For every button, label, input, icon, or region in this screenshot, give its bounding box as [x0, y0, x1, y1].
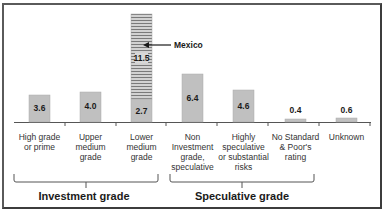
svg-text:6.4: 6.4	[187, 93, 199, 103]
category-labels: High gradeor prime Uppermediumgrade Lowe…	[19, 132, 365, 172]
svg-text:Highlyspeculativeor substantia: Highlyspeculativeor substantialrisks	[218, 132, 269, 172]
svg-text:Uppermediumgrade: Uppermediumgrade	[75, 132, 105, 162]
svg-text:NonInvestmentgrade,speculative: NonInvestmentgrade,speculative	[171, 132, 214, 172]
svg-text:11.5: 11.5	[133, 53, 149, 63]
brace-speculative-grade	[170, 174, 314, 188]
bar-no-sp-rating: 0.4	[285, 105, 306, 122]
svg-text:3.6: 3.6	[34, 103, 46, 113]
svg-text:4.6: 4.6	[238, 101, 250, 111]
svg-text:Lowermediumgrade: Lowermediumgrade	[126, 132, 156, 162]
svg-text:0.4: 0.4	[290, 105, 302, 115]
svg-text:Unknown: Unknown	[329, 132, 365, 142]
bar-lower-medium: 11.5 2.7	[131, 14, 152, 122]
bar-unknown: 0.6	[336, 105, 357, 122]
bar-chart: 3.6 4.0 11.5 2.7 6.4 4.6 0.4 0.6 Mexico …	[0, 0, 384, 212]
bar-high-grade: 3.6	[29, 95, 50, 122]
bar-non-investment: 6.4	[182, 74, 203, 122]
svg-text:High gradeor prime: High gradeor prime	[19, 132, 61, 152]
svg-text:2.7: 2.7	[136, 106, 148, 116]
svg-text:Mexico: Mexico	[174, 40, 203, 50]
group-label-speculative: Speculative grade	[195, 190, 289, 202]
group-label-investment: Investment grade	[38, 190, 129, 202]
svg-text:4.0: 4.0	[85, 101, 97, 111]
bar-upper-medium: 4.0	[80, 92, 101, 122]
brace-investment-grade	[14, 174, 158, 188]
svg-text:0.6: 0.6	[341, 105, 353, 115]
svg-text:No Standard& Poor'srating: No Standard& Poor'srating	[272, 132, 320, 162]
bar-highly-speculative: 4.6	[233, 90, 254, 122]
